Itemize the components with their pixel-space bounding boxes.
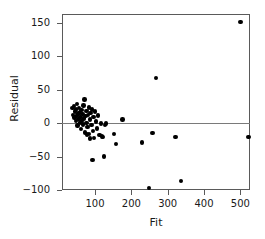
x-axis-tick-label: 500 [220, 199, 260, 209]
residual-vs-fit-scatter-plot: −100−50050100150 100200300400500 Residua… [0, 0, 265, 239]
x-axis-tick [204, 190, 205, 195]
y-axis-tick [57, 56, 62, 57]
x-axis-tick-label: 200 [111, 199, 151, 209]
x-axis-label: Fit [62, 216, 250, 229]
data-point [246, 135, 250, 139]
y-axis-tick-label: −100 [4, 185, 50, 195]
data-point [81, 103, 85, 107]
data-point [140, 140, 144, 144]
data-point [88, 136, 92, 140]
y-axis-tick [57, 190, 62, 191]
y-axis-tick [57, 23, 62, 24]
x-axis-tick-label: 300 [148, 199, 188, 209]
x-axis-tick [240, 190, 241, 195]
x-axis-tick-label: 100 [75, 199, 115, 209]
x-axis-tick [168, 190, 169, 195]
data-point [82, 97, 86, 101]
data-point [238, 20, 242, 24]
data-point [150, 131, 154, 135]
y-axis-tick-label: 150 [4, 18, 50, 28]
data-point [112, 132, 116, 136]
data-point [173, 135, 177, 139]
x-axis-tick-label: 400 [184, 199, 224, 209]
y-axis-label: Residual [8, 64, 21, 134]
data-point [89, 123, 93, 127]
data-point [120, 117, 124, 121]
x-axis-tick [131, 190, 132, 195]
y-axis-tick [57, 123, 62, 124]
data-point [147, 186, 151, 190]
y-axis-tick [57, 90, 62, 91]
y-axis-tick-label: 100 [4, 51, 50, 61]
data-point [95, 126, 99, 130]
x-axis-tick [95, 190, 96, 195]
plot-frame [62, 14, 250, 190]
y-axis-tick [57, 157, 62, 158]
data-point [102, 154, 106, 158]
data-point [90, 158, 94, 162]
y-axis-tick-label: −50 [4, 152, 50, 162]
